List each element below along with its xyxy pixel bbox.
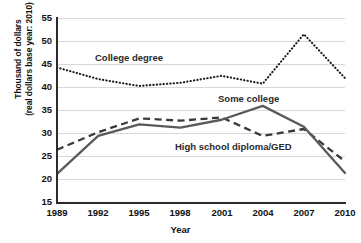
x-axis-title: Year [0, 224, 361, 235]
x-tick-label: 2007 [284, 207, 324, 218]
x-tick-label: 2004 [243, 207, 283, 218]
x-tick-label: 2010 [325, 207, 361, 218]
x-tick-label: 1989 [37, 207, 77, 218]
y-tick-label: 50 [26, 36, 52, 46]
y-tick-label: 35 [26, 105, 52, 115]
series-line-some-college [57, 106, 345, 174]
plot-area [57, 18, 345, 203]
x-tick-label: 1998 [160, 207, 200, 218]
series-lines [57, 18, 345, 203]
series-annotation-some-college: Some college [218, 93, 279, 104]
series-annotation-college-degree: College degree [95, 52, 163, 63]
x-tick-label: 1992 [78, 207, 118, 218]
y-tick-label: 30 [26, 128, 52, 138]
x-tick-label: 2001 [202, 207, 242, 218]
y-tick-label: 45 [26, 59, 52, 69]
y-tick-label: 20 [26, 174, 52, 184]
y-tick-label: 55 [26, 13, 52, 23]
y-tick-label: 25 [26, 151, 52, 161]
line-chart-figure: Thousand of dollars (real dollars base y… [0, 0, 361, 243]
y-axis-line [56, 17, 58, 204]
series-annotation-high-school-diploma-ged: High school diploma/GED [175, 141, 292, 152]
x-tick-label: 1995 [119, 207, 159, 218]
y-tick-label: 15 [26, 197, 52, 207]
x-axis-line [56, 202, 346, 204]
y-tick-label: 40 [26, 82, 52, 92]
